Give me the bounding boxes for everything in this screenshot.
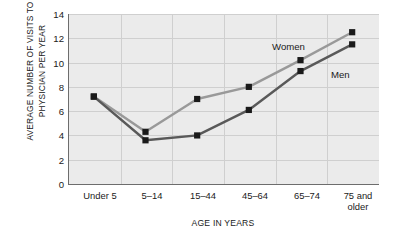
x-tick-15-44: 15–44 [173, 190, 233, 201]
series-women [91, 29, 356, 135]
data-point-men-1 [142, 137, 148, 143]
data-point-men-2 [194, 132, 200, 138]
x-tick-under-5: Under 5 [70, 190, 130, 201]
x-axis-title: AGE IN YEARS [68, 218, 378, 228]
data-point-men-0 [91, 93, 97, 99]
data-point-men-5 [349, 41, 355, 47]
x-tick-45-64: 45–64 [225, 190, 285, 201]
series-label-men: Men [331, 69, 350, 80]
data-point-men-3 [246, 107, 252, 113]
data-point-women-3 [246, 84, 252, 90]
series-label-women: Women [272, 41, 305, 52]
line-chart: AVERAGE NUMBER OF VISITS TO PHYSICIAN PE… [0, 0, 405, 237]
data-point-women-4 [297, 57, 303, 63]
x-tick-75-older-line2: older [328, 201, 388, 212]
data-point-women-1 [142, 129, 148, 135]
x-tick-75-older-line1: 75 and [328, 190, 388, 201]
data-point-women-5 [349, 29, 355, 35]
data-point-women-2 [194, 96, 200, 102]
data-point-men-4 [297, 68, 303, 74]
